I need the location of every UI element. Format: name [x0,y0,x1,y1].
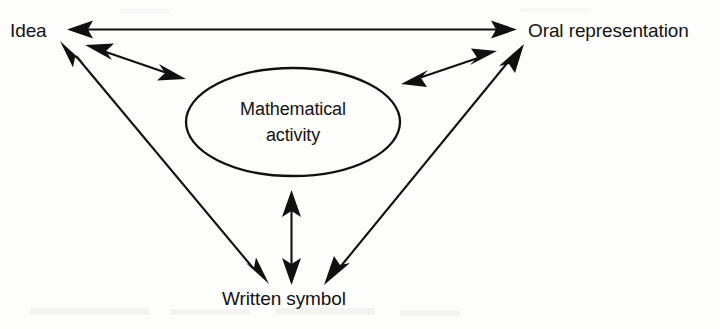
node-label-written: Written symbol [222,288,346,309]
node-label-oral: Oral representation [528,20,689,41]
edge-oral-written [324,44,524,285]
arrowhead-lower-left [401,70,428,87]
edge-center-written [282,190,301,285]
mathematical-activity-ellipse [186,68,400,176]
arrowhead-upper-right [470,49,497,66]
edge-oral-center [401,49,497,88]
ellipse-label-line1: Mathematical [240,99,346,119]
diagram-graphic: Idea Oral representation Written symbol … [0,0,720,329]
arrowhead-bottom [246,258,269,285]
arrowhead-upper-left [85,44,114,61]
edge-idea-oral [67,21,517,39]
ellipse-label-line2: activity [266,125,320,145]
node-label-idea: Idea [10,20,47,41]
edge-idea-center [85,44,186,81]
figure-canvas: Idea Oral representation Written symbol … [0,0,720,329]
arrowhead-lower-right [157,64,186,81]
arrowhead-top [60,41,83,68]
